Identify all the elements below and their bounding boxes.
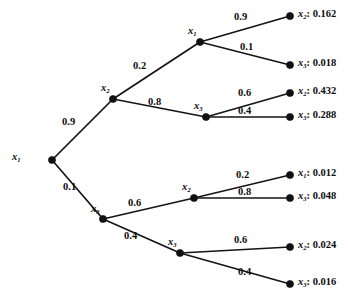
leaf-label-6: x3: 0.048: [298, 191, 336, 202]
prob-label-leaf-6: 0.8: [238, 187, 251, 198]
leaf-label-8: x3: 0.016: [298, 277, 336, 288]
leaf-label-1: x2: 0.162: [298, 9, 336, 20]
edge-leaf-7: [180, 247, 290, 253]
prob-label-lower-b: 0.4: [124, 231, 137, 242]
tree-edges-canvas: [0, 0, 348, 305]
prob-label-upper-a: 0.2: [133, 61, 146, 72]
probability-tree-diagram: x1 x2 x3 x1 x3 x2 x3 0.9 0.1 0.2 0.8 0.9…: [0, 0, 348, 305]
node-dot-upper-b: [202, 113, 209, 120]
node-dot-lower-a: [190, 194, 197, 201]
prob-label-upper-b: 0.8: [148, 97, 161, 108]
node-dot-lower-b: [176, 249, 183, 256]
node-label-upper: x2: [101, 83, 110, 94]
prob-label-leaf-8: 0.4: [238, 267, 251, 278]
prob-label-leaf-7: 0.6: [234, 235, 247, 246]
leaf-label-7: x2: 0.024: [298, 240, 336, 251]
node-label-lower: x3: [91, 204, 100, 215]
leaf-dot-4: [286, 113, 293, 120]
leaf-label-5: x1: 0.012: [298, 168, 336, 179]
leaf-dot-8: [286, 280, 293, 287]
leaf-dot-1: [286, 12, 293, 19]
leaf-dot-7: [286, 243, 293, 250]
prob-label-leaf-1: 0.9: [234, 12, 247, 23]
leaf-label-2: x3: 0.018: [298, 58, 336, 69]
node-dot-upper: [109, 95, 116, 102]
prob-label-leaf-5: 0.2: [236, 170, 249, 181]
leaf-label-4: x3: 0.288: [298, 110, 336, 121]
node-dot-upper-a: [196, 38, 203, 45]
leaf-label-3: x2: 0.432: [298, 86, 336, 97]
leaf-dot-6: [286, 194, 293, 201]
prob-label-leaf-4: 0.4: [238, 106, 251, 117]
prob-label-leaf-2: 0.1: [240, 42, 253, 53]
node-label-lower-b: x3: [168, 237, 177, 248]
node-label-lower-a: x2: [182, 182, 191, 193]
leaf-dot-2: [286, 61, 293, 68]
prob-label-root-upper: 0.9: [62, 117, 75, 128]
edge-leaf-8: [180, 253, 290, 284]
prob-label-leaf-3: 0.6: [238, 88, 251, 99]
edge-upper-a: [113, 42, 200, 99]
prob-label-root-lower: 0.1: [63, 182, 76, 193]
leaf-dot-5: [286, 171, 293, 178]
edge-root-upper: [52, 99, 113, 160]
node-label-upper-b: x3: [194, 101, 203, 112]
node-label-upper-a: x1: [188, 26, 197, 37]
leaf-dot-3: [286, 89, 293, 96]
edge-lower-a: [103, 198, 194, 219]
node-label-root: x1: [12, 152, 21, 163]
node-dot-root: [48, 156, 55, 163]
prob-label-lower-a: 0.6: [128, 198, 141, 209]
node-dot-lower: [99, 215, 106, 222]
